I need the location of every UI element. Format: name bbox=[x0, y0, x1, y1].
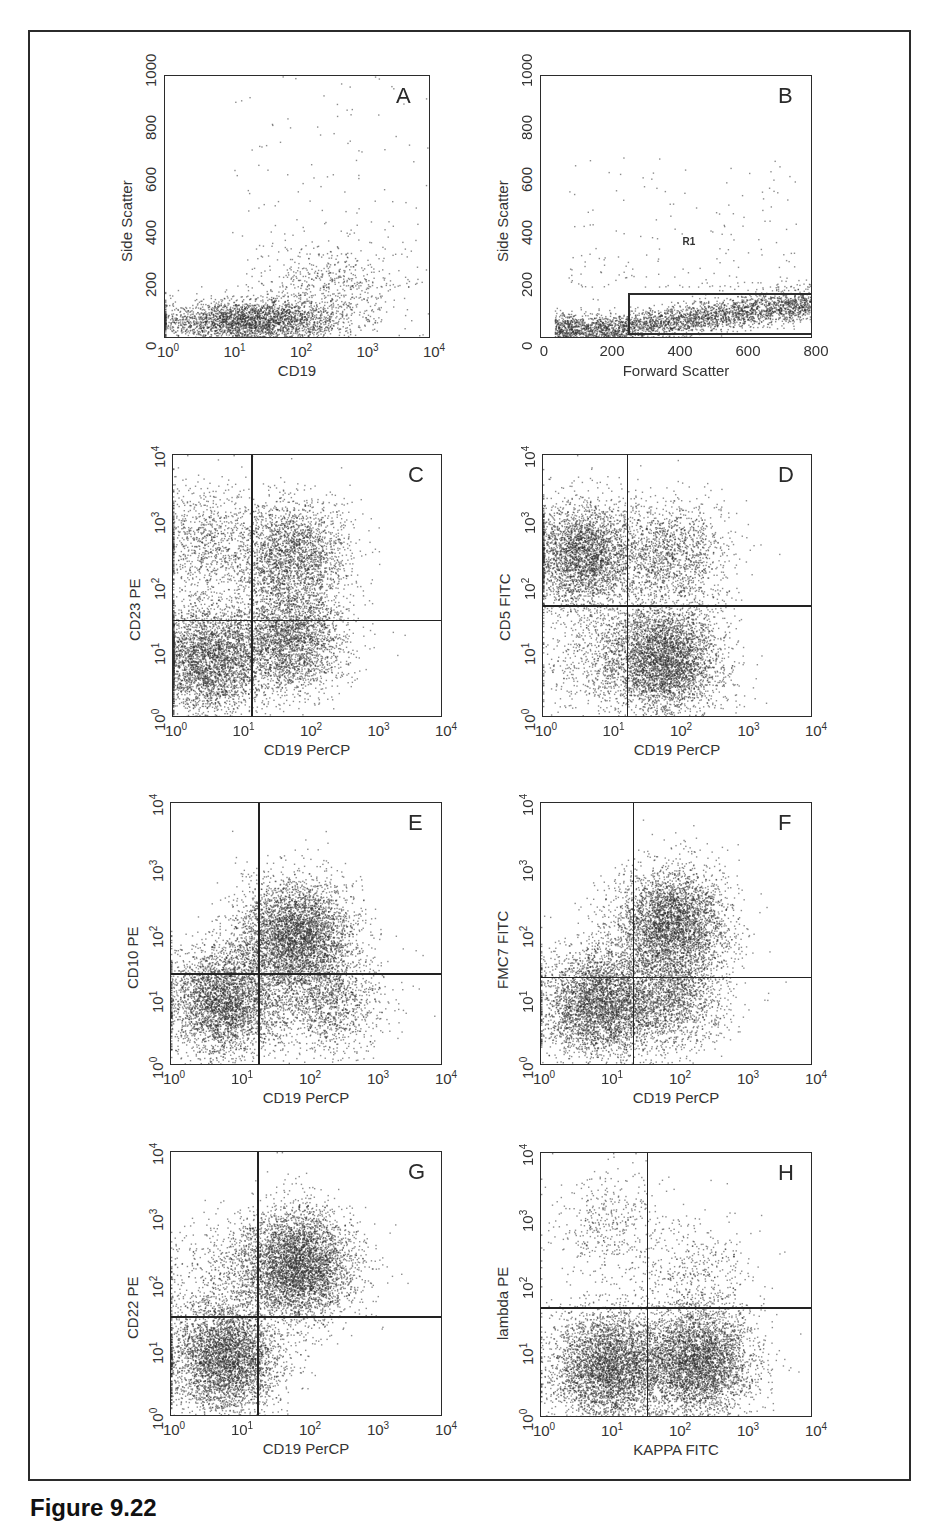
x-tick-label: 103 bbox=[737, 1421, 759, 1439]
tick-exponent: 1 bbox=[520, 643, 531, 649]
plot-area-e bbox=[170, 802, 442, 1065]
panel-letter: F bbox=[778, 810, 791, 836]
tick-base: 10 bbox=[737, 1070, 754, 1087]
quadrant-line-horizontal bbox=[541, 1307, 811, 1309]
tick-base: 10 bbox=[423, 343, 440, 360]
tick-base: 10 bbox=[805, 1422, 822, 1439]
tick-exponent: 3 bbox=[384, 1420, 390, 1431]
panel-letter: C bbox=[408, 462, 424, 488]
y-tick-label: 101 bbox=[520, 643, 538, 665]
tick-base: 10 bbox=[232, 722, 249, 739]
y-tick-label: 101 bbox=[148, 1342, 166, 1364]
x-axis-label: CD19 PerCP bbox=[542, 741, 812, 758]
x-axis-label: KAPPA FITC bbox=[540, 1441, 812, 1458]
x-tick-label: 102 bbox=[299, 1069, 321, 1087]
quadrant-line-horizontal bbox=[543, 605, 811, 607]
tick-exponent: 4 bbox=[148, 1143, 159, 1149]
y-tick-label: 101 bbox=[518, 991, 536, 1013]
tick-exponent: 1 bbox=[518, 991, 529, 997]
tick-exponent: 1 bbox=[619, 721, 625, 732]
y-axis-label: Side Scatter bbox=[494, 180, 511, 262]
y-tick-label: 102 bbox=[148, 1275, 166, 1297]
x-tick-label: 100 bbox=[533, 1069, 555, 1087]
y-tick-label: 104 bbox=[518, 1144, 536, 1166]
tick-exponent: 0 bbox=[518, 1057, 529, 1063]
tick-base: 10 bbox=[669, 1422, 686, 1439]
tick-base: 10 bbox=[299, 1421, 316, 1438]
x-axis-label: CD19 PerCP bbox=[172, 741, 442, 758]
tick-base: 10 bbox=[670, 722, 687, 739]
tick-base: 10 bbox=[367, 722, 384, 739]
tick-base: 10 bbox=[149, 1062, 166, 1079]
x-tick-label: 104 bbox=[805, 1421, 827, 1439]
tick-base: 10 bbox=[149, 931, 166, 948]
tick-base: 10 bbox=[149, 799, 166, 816]
tick-base: 10 bbox=[519, 1348, 536, 1365]
y-tick-label: 101 bbox=[150, 643, 168, 665]
x-tick-label: 104 bbox=[435, 721, 457, 739]
tick-exponent: 0 bbox=[180, 1069, 186, 1080]
x-tick-label: 101 bbox=[223, 342, 245, 360]
y-tick-label: 104 bbox=[148, 794, 166, 816]
tick-exponent: 2 bbox=[520, 577, 531, 583]
x-tick-label: 100 bbox=[165, 721, 187, 739]
plot-area-f bbox=[540, 802, 812, 1065]
tick-exponent: 3 bbox=[754, 1069, 760, 1080]
tick-exponent: 2 bbox=[316, 1069, 322, 1080]
x-tick-label: 103 bbox=[367, 1420, 389, 1438]
tick-base: 10 bbox=[151, 451, 168, 468]
tick-exponent: 4 bbox=[518, 1144, 529, 1150]
x-tick-label: 103 bbox=[367, 1069, 389, 1087]
tick-exponent: 3 bbox=[754, 721, 760, 732]
x-axis-label: CD19 PerCP bbox=[170, 1440, 442, 1457]
panel-letter: E bbox=[408, 810, 423, 836]
y-tick-label: 600 bbox=[142, 167, 159, 192]
y-tick-label: 100 bbox=[518, 1057, 536, 1079]
tick-exponent: 2 bbox=[686, 1069, 692, 1080]
y-tick-label: 400 bbox=[518, 220, 535, 245]
tick-exponent: 0 bbox=[550, 1421, 556, 1432]
tick-base: 10 bbox=[519, 1414, 536, 1431]
tick-exponent: 3 bbox=[148, 860, 159, 866]
scatter-points bbox=[171, 803, 442, 1065]
tick-exponent: 1 bbox=[148, 991, 159, 997]
tick-base: 10 bbox=[231, 1421, 248, 1438]
tick-base: 10 bbox=[521, 583, 538, 600]
tick-exponent: 4 bbox=[440, 342, 446, 353]
y-tick-label: 1000 bbox=[518, 54, 535, 87]
x-tick-label: 102 bbox=[300, 721, 322, 739]
tick-base: 10 bbox=[356, 343, 373, 360]
tick-base: 10 bbox=[805, 722, 822, 739]
tick-base: 10 bbox=[223, 343, 240, 360]
x-axis-label: CD19 PerCP bbox=[540, 1089, 812, 1106]
x-tick-label: 101 bbox=[601, 1069, 623, 1087]
tick-exponent: 0 bbox=[174, 342, 180, 353]
x-tick-label: 101 bbox=[601, 1421, 623, 1439]
tick-base: 10 bbox=[299, 1070, 316, 1087]
x-tick-label: 100 bbox=[157, 342, 179, 360]
x-tick-label: 103 bbox=[737, 721, 759, 739]
tick-exponent: 2 bbox=[150, 577, 161, 583]
y-tick-label: 100 bbox=[148, 1408, 166, 1430]
tick-exponent: 1 bbox=[248, 1420, 254, 1431]
tick-base: 10 bbox=[521, 714, 538, 731]
x-tick-label: 200 bbox=[599, 342, 624, 359]
tick-exponent: 3 bbox=[384, 1069, 390, 1080]
tick-exponent: 2 bbox=[316, 1420, 322, 1431]
y-tick-label: 104 bbox=[148, 1143, 166, 1165]
y-tick-label: 1000 bbox=[142, 54, 159, 87]
x-tick-label: 102 bbox=[669, 1421, 691, 1439]
tick-base: 10 bbox=[151, 649, 168, 666]
tick-exponent: 2 bbox=[148, 925, 159, 931]
tick-base: 10 bbox=[149, 1347, 166, 1364]
tick-exponent: 2 bbox=[148, 1275, 159, 1281]
tick-exponent: 1 bbox=[150, 643, 161, 649]
tick-exponent: 3 bbox=[518, 1210, 529, 1216]
tick-base: 10 bbox=[149, 1413, 166, 1430]
x-tick-label: 100 bbox=[163, 1069, 185, 1087]
tick-exponent: 4 bbox=[518, 794, 529, 800]
scatter-points bbox=[171, 1152, 442, 1416]
tick-base: 10 bbox=[435, 1070, 452, 1087]
panel-letter: G bbox=[408, 1159, 425, 1185]
tick-base: 10 bbox=[519, 931, 536, 948]
